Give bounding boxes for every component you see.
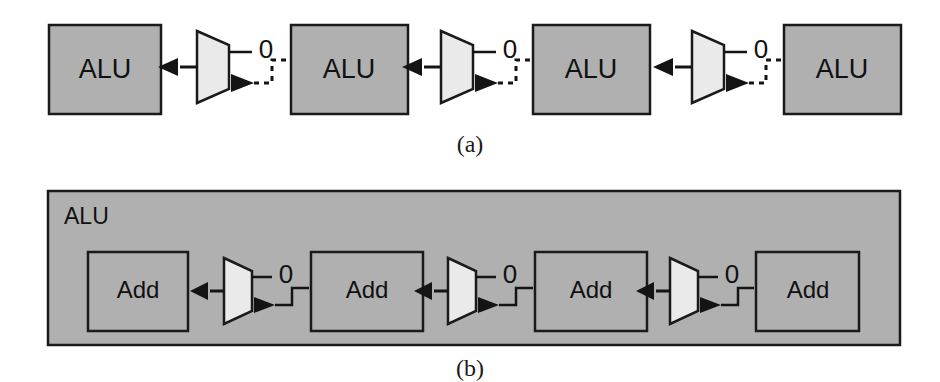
mux-b-2-shape: [448, 258, 476, 324]
add-block-3: Add: [535, 252, 647, 331]
add-block-1: Add: [88, 252, 188, 331]
alu-block-1: ALU: [49, 25, 161, 114]
add-block-3-label: Add: [570, 276, 613, 303]
add-block-2-label: Add: [346, 276, 389, 303]
alu-block-1-label: ALU: [79, 54, 132, 84]
chained-alu-adder-diagram: ALU ALU ALU ALU 0: [0, 0, 940, 382]
mux-b-1-select-label: 0: [279, 259, 293, 289]
mux-b-1-shape: [224, 258, 252, 324]
mux-a-1-shape: [197, 31, 229, 103]
alu-container-label: ALU: [64, 203, 109, 229]
mux-b-3-select-label: 0: [725, 259, 739, 289]
alu-block-3: ALU: [533, 25, 650, 114]
figure-root: ALU ALU ALU ALU 0: [0, 0, 940, 382]
alu-block-4: ALU: [784, 25, 901, 114]
alu-block-3-label: ALU: [565, 54, 618, 84]
alu-block-4-label: ALU: [816, 54, 869, 84]
mux-b-2-select-label: 0: [503, 259, 517, 289]
panel-a-caption: (a): [457, 131, 484, 157]
add-block-4: Add: [756, 252, 859, 331]
alu-block-2: ALU: [291, 25, 408, 114]
add-block-4-label: Add: [787, 276, 830, 303]
add-block-2: Add: [311, 252, 423, 331]
mux-a-3-shape: [692, 31, 724, 103]
add-block-1-label: Add: [117, 276, 160, 303]
alu-block-2-label: ALU: [323, 54, 376, 84]
mux-a-2-shape: [441, 31, 473, 103]
mux-b-3-shape: [670, 258, 698, 324]
panel-b-caption: (b): [456, 355, 484, 381]
